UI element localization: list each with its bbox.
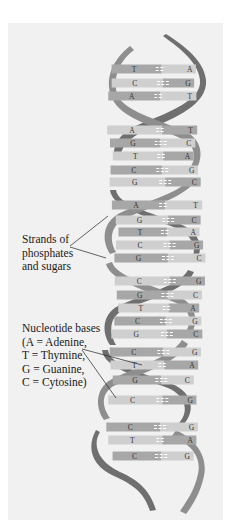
base-letter-right: T <box>188 126 193 135</box>
base-pair: CG <box>112 79 194 88</box>
bases-label: Nucleotide bases (A = Adenine, T = Thymi… <box>22 322 100 390</box>
base-letter-right: T <box>187 92 192 101</box>
base-pair: GC <box>110 139 195 148</box>
base-letter-right: A <box>189 361 195 370</box>
base-pair: CG <box>111 166 198 175</box>
base-letter-left: G <box>134 330 140 339</box>
base-letter-right: C <box>193 291 198 300</box>
base-letter-left: T <box>132 361 137 370</box>
base-pair: GC <box>111 330 202 339</box>
base-letter-left: C <box>132 79 137 88</box>
base-pair: AT <box>112 201 202 210</box>
base-letter-left: G <box>137 216 143 225</box>
base-letter-left: C <box>135 317 140 326</box>
bases-label-line-3: T = Thymine, <box>22 349 100 363</box>
base-letter-left: A <box>133 201 139 210</box>
base-letter-left: G <box>136 254 142 263</box>
base-letter-right: G <box>192 348 198 357</box>
base-letter-left: G <box>137 291 143 300</box>
base-letter-left: T <box>133 152 138 161</box>
base-pair: CG <box>108 396 196 405</box>
base-letter-right: A <box>190 304 196 313</box>
base-pair: TA <box>113 152 194 161</box>
base-letter-right: G <box>192 317 198 326</box>
bases-label-line-1: Nucleotide bases <box>22 322 100 336</box>
base-pair: AT <box>107 126 197 135</box>
base-pair: TA <box>118 304 199 313</box>
base-pair: TA <box>112 65 196 74</box>
base-letter-right: G <box>187 396 193 405</box>
strands-label: Strands of phosphates and sugars <box>22 233 73 274</box>
base-letter-left: G <box>132 376 138 385</box>
base-pair: CG <box>116 241 203 250</box>
base-letter-right: C <box>196 254 201 263</box>
base-letter-right: C <box>193 330 198 339</box>
strands-label-line-3: and sugars <box>22 260 73 274</box>
base-pair: CG <box>106 423 198 432</box>
base-letter-left: C <box>137 241 142 250</box>
base-letter-left: A <box>129 126 135 135</box>
base-letter-left: G <box>130 139 136 148</box>
bases-label-line-2: (A = Adenine, <box>22 336 100 350</box>
base-pair: GC <box>116 216 201 225</box>
base-letter-left: T <box>132 65 137 74</box>
base-pair: CG <box>113 452 194 461</box>
base-letter-right: A <box>185 152 191 161</box>
base-letter-left: T <box>138 228 143 237</box>
base-pair: GC <box>110 178 201 187</box>
base-letter-left: T <box>130 436 135 445</box>
strands-label-line-2: phosphates <box>22 247 73 261</box>
base-letter-left: C <box>131 348 136 357</box>
base-letter-left: C <box>130 396 135 405</box>
base-pair: CG <box>115 277 205 286</box>
base-letter-right: C <box>192 178 197 187</box>
base-letter-left: C <box>128 423 133 432</box>
base-pair: AT <box>108 92 196 101</box>
strands-label-line-1: Strands of <box>22 233 73 247</box>
base-letter-left: C <box>131 166 136 175</box>
base-letter-right: T <box>193 201 198 210</box>
base-letter-right: G <box>189 166 195 175</box>
base-letter-right: C <box>192 216 197 225</box>
base-letter-left: C <box>132 452 137 461</box>
base-letter-right: G <box>196 277 202 286</box>
base-letter-left: C <box>137 277 142 286</box>
base-letter-right: G <box>185 452 191 461</box>
base-letter-left: A <box>129 92 135 101</box>
base-pair: TA <box>118 228 199 237</box>
base-letter-right: C <box>185 376 190 385</box>
base-pair: GC <box>113 376 194 385</box>
base-pair: CG <box>114 317 201 326</box>
base-letter-left: T <box>138 304 143 313</box>
base-letter-right: A <box>187 65 193 74</box>
base-letter-left: G <box>132 178 138 187</box>
base-pair: GC <box>114 254 205 263</box>
base-letter-right: G <box>189 423 195 432</box>
base-pair: TA <box>110 361 198 370</box>
base-pair: CG <box>110 348 201 357</box>
base-letter-right: C <box>186 139 191 148</box>
base-pair: TA <box>108 436 196 445</box>
base-letter-right: A <box>187 436 193 445</box>
base-letter-right: G <box>194 241 200 250</box>
bases-label-line-5: C = Cytosine) <box>22 376 100 390</box>
base-letter-right: G <box>185 79 191 88</box>
bases-label-line-4: G = Guanine, <box>22 363 100 377</box>
base-pair: GC <box>117 291 202 300</box>
base-letter-right: A <box>190 228 196 237</box>
